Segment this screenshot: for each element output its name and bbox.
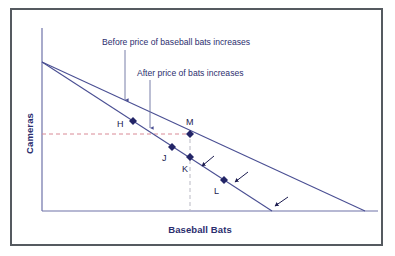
x-axis-label: Baseball Bats bbox=[130, 224, 270, 235]
shift-arrow-2 bbox=[235, 172, 248, 182]
axes bbox=[42, 28, 378, 211]
point-label-k: K bbox=[182, 164, 188, 174]
shift-arrows bbox=[202, 156, 288, 206]
point-label-j: J bbox=[162, 153, 167, 163]
point-label-l: L bbox=[214, 186, 219, 196]
shift-arrow-3 bbox=[275, 197, 288, 206]
budget-constraint-lines bbox=[42, 62, 365, 211]
annotation-arrows bbox=[125, 50, 150, 128]
annotation-after-label: After price of bats increases bbox=[137, 68, 244, 78]
shift-arrow-1 bbox=[202, 156, 214, 166]
budget-line-after bbox=[42, 62, 272, 211]
budget-line-before bbox=[42, 62, 365, 211]
point-label-h: H bbox=[117, 119, 124, 129]
y-axis-label: Cameras bbox=[24, 94, 35, 174]
data-point-l bbox=[220, 176, 228, 184]
data-point-h bbox=[129, 117, 137, 125]
figure-container: Cameras Baseball Bats Before price of ba… bbox=[0, 0, 395, 256]
reference-lines bbox=[42, 132, 192, 211]
annotation-before-label: Before price of baseball bats increases bbox=[102, 37, 250, 47]
point-label-m: M bbox=[186, 117, 194, 127]
